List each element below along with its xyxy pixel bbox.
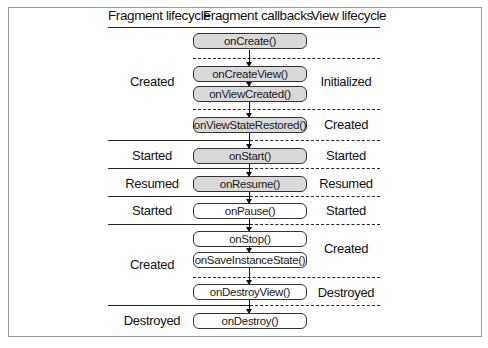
callback-on-destroy-view: onDestroyView() (193, 284, 307, 300)
callback-on-view-state-restored: onViewStateRestored() (193, 117, 307, 133)
fragment-state-divider (108, 305, 250, 306)
view-state-started: Started (310, 203, 382, 218)
view-state-divider (250, 224, 380, 225)
callback-on-create: onCreate() (193, 33, 307, 49)
callback-on-start: onStart() (193, 148, 307, 164)
view-state-divider (250, 140, 380, 141)
view-state-divider (193, 109, 380, 110)
view-state-resumed: Resumed (310, 176, 382, 191)
header-fragment-callbacks: Fragment callbacks (203, 8, 313, 23)
header-fragment-lifecycle: Fragment lifecycle (108, 8, 210, 23)
callback-on-stop: onStop() (193, 231, 307, 247)
callback-on-view-created: onViewCreated() (193, 86, 307, 102)
view-state-created: Created (310, 117, 382, 132)
fragment-state-divider (108, 168, 250, 169)
fragment-state-started: Started (112, 148, 192, 163)
arrow-down-icon (249, 133, 250, 148)
arrow-down-icon (249, 300, 250, 313)
fragment-state-resumed: Resumed (112, 176, 192, 191)
arrow-down-icon (249, 102, 250, 117)
fragment-state-destroyed: Destroyed (112, 313, 192, 328)
view-state-divider (250, 305, 380, 306)
fragment-state-started: Started (112, 203, 192, 218)
fragment-state-divider (108, 196, 250, 197)
fragment-state-created: Created (112, 257, 192, 272)
arrow-down-icon (249, 268, 250, 284)
view-state-destroyed: Destroyed (310, 285, 382, 300)
fragment-state-divider (108, 140, 250, 141)
view-state-created: Created (310, 241, 382, 256)
fragment-state-created: Created (112, 74, 192, 89)
callback-on-pause: onPause() (193, 203, 307, 219)
arrow-down-icon (249, 164, 250, 176)
view-state-initialized: Initialized (310, 74, 382, 89)
callback-on-create-view: onCreateView() (193, 66, 307, 82)
view-state-divider (250, 196, 380, 197)
callback-on-save-instance-state: onSaveInstanceState() (193, 252, 307, 268)
header-underline (108, 27, 380, 28)
fragment-state-divider (108, 224, 250, 225)
header-view-lifecycle: View lifecycle (311, 8, 386, 23)
callback-on-resume: onResume() (193, 176, 307, 192)
view-state-started: Started (310, 148, 382, 163)
view-state-divider (193, 277, 380, 278)
callback-on-destroy: onDestroy() (193, 313, 307, 329)
arrow-down-icon (249, 50, 250, 66)
view-state-divider (250, 168, 380, 169)
view-state-divider (193, 58, 380, 59)
arrow-down-icon (249, 219, 250, 231)
arrow-down-icon (249, 192, 250, 203)
